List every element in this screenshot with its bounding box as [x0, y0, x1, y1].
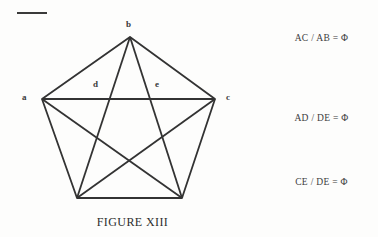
diagonal-b-bottomleft [77, 37, 130, 198]
vertex-label-b: b [126, 20, 131, 29]
figure-page: b a c d e FIGURE XIII AC / AB = Φ AD / D… [0, 0, 378, 237]
diagonal-a-bottomright [42, 99, 182, 198]
pentagram-figure: b a c d e FIGURE XIII [0, 0, 265, 237]
vertex-label-a: a [22, 93, 27, 102]
interior-label-e: e [155, 80, 159, 89]
diagonal-b-bottomright [130, 37, 182, 198]
pentagon-diagram-svg [0, 0, 265, 215]
equation-ce-de: CE / DE = Φ [265, 177, 378, 187]
interior-label-d: d [93, 80, 98, 89]
vertex-label-c: c [226, 93, 230, 102]
diagonal-c-bottomleft [77, 99, 215, 198]
equation-ac-ab: AC / AB = Φ [265, 33, 378, 43]
equations-column: AC / AB = Φ AD / DE = Φ CE / DE = Φ [265, 0, 378, 237]
equation-ad-de: AD / DE = Φ [265, 113, 378, 123]
figure-caption: FIGURE XIII [0, 215, 265, 230]
